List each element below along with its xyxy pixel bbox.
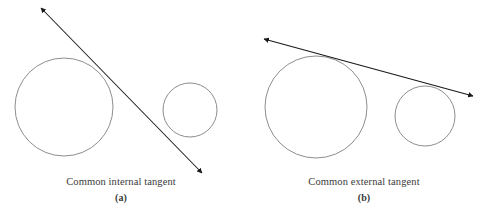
panel-b-large-circle [265,56,367,158]
panel-a-internal-tangent-line [41,8,202,173]
figure-container: Common internal tangent (a) Common exter… [0,0,485,214]
panel-a-small-circle [163,83,217,137]
panel-a-label: (a) [0,192,242,204]
panel-b-label: (b) [243,192,485,204]
panel-a: Common internal tangent (a) [0,0,242,214]
panel-a-large-circle [15,58,113,156]
panel-b: Common external tangent (b) [243,0,485,214]
panel-b-external-tangent-line [264,39,473,96]
panel-b-caption: Common external tangent [243,176,485,188]
panel-a-caption: Common internal tangent [0,176,242,188]
panel-b-small-circle [395,86,455,146]
